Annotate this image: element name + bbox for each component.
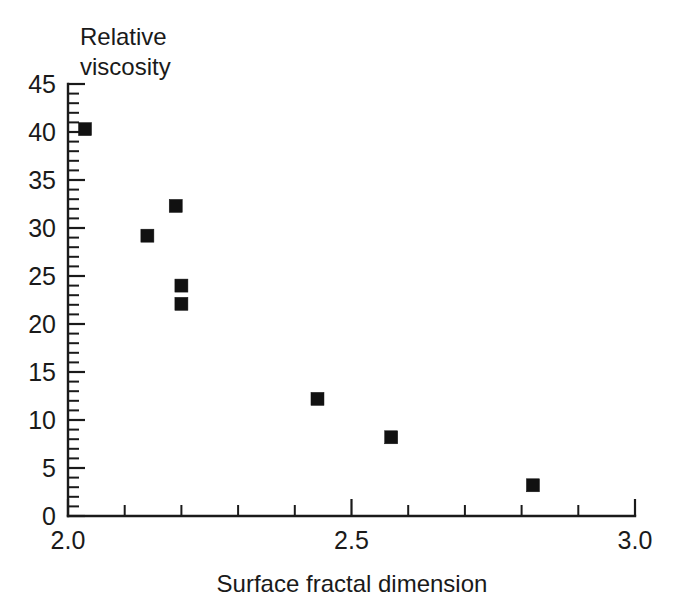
y-axis-tick-label: 20 xyxy=(28,310,56,338)
y-axis-tick-label: 10 xyxy=(28,406,56,434)
chart-canvas: Relative viscosity 051015202530354045 2.… xyxy=(0,0,673,609)
y-axis-title-line1: Relative xyxy=(80,23,167,50)
y-axis-tick-label: 25 xyxy=(28,262,56,290)
y-axis-tick-label: 15 xyxy=(28,358,56,386)
data-point-marker xyxy=(311,392,324,405)
y-axis-tick-label: 35 xyxy=(28,166,56,194)
y-axis-tick-label: 40 xyxy=(28,118,56,146)
y-axis-tick-label: 30 xyxy=(28,214,56,242)
x-axis-tick-label: 2.5 xyxy=(334,526,369,554)
x-axis-tick-label: 3.0 xyxy=(618,526,653,554)
y-axis-tick-labels: 051015202530354045 xyxy=(28,70,56,530)
y-axis-tick-label: 5 xyxy=(42,454,56,482)
x-axis-title: Surface fractal dimension xyxy=(217,570,488,597)
x-axis-major-ticks xyxy=(68,499,635,516)
x-axis-tick-labels: 2.02.53.0 xyxy=(51,526,653,554)
data-point-marker xyxy=(175,297,188,310)
data-point-marker xyxy=(175,279,188,292)
data-point-marker xyxy=(169,199,182,212)
y-axis-tick-label: 45 xyxy=(28,70,56,98)
data-point-series xyxy=(79,123,540,492)
y-axis-major-ticks xyxy=(68,84,85,516)
x-axis-tick-label: 2.0 xyxy=(51,526,86,554)
data-point-marker xyxy=(526,479,539,492)
data-point-marker xyxy=(141,229,154,242)
data-point-marker xyxy=(79,123,92,136)
scatter-chart: Relative viscosity 051015202530354045 2.… xyxy=(0,0,673,609)
y-axis-minor-ticks xyxy=(68,94,79,507)
y-axis-title: Relative viscosity xyxy=(80,23,171,80)
y-axis-title-line2: viscosity xyxy=(80,53,171,80)
data-point-marker xyxy=(385,431,398,444)
